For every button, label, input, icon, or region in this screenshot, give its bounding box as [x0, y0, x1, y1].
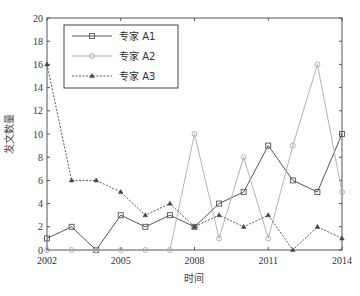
y-tick-label: 4	[38, 198, 43, 209]
x-tick-label: 2014	[332, 255, 352, 266]
data-series	[45, 62, 345, 253]
x-tick-label: 2002	[37, 255, 57, 266]
y-tick-label: 0	[38, 245, 43, 256]
x-tick-label: 2011	[258, 255, 278, 266]
y-tick-label: 12	[33, 105, 43, 116]
y-axis-label: 发文数量	[3, 114, 15, 154]
series-3	[45, 62, 345, 252]
legend-label: 专家 A2	[119, 50, 155, 62]
y-tick-label: 14	[33, 82, 43, 93]
x-axis-label: 时间	[184, 272, 204, 284]
x-tick-label: 2008	[185, 255, 205, 266]
y-tick-label: 20	[33, 13, 43, 24]
legend-label: 专家 A3	[119, 70, 155, 82]
y-tick-label: 8	[38, 152, 43, 163]
y-tick-label: 6	[38, 175, 43, 186]
y-tick-label: 2	[38, 221, 43, 232]
series-1	[45, 132, 345, 253]
line-chart: 02468101214161820 20022005200820112014 专…	[0, 0, 360, 296]
legend: 专家 A1专家 A2专家 A3	[64, 25, 178, 88]
legend-label: 专家 A1	[119, 30, 155, 42]
y-tick-label: 10	[33, 129, 43, 140]
x-tick-label: 2005	[111, 255, 131, 266]
y-tick-label: 16	[33, 59, 43, 70]
y-tick-label: 18	[33, 36, 43, 47]
